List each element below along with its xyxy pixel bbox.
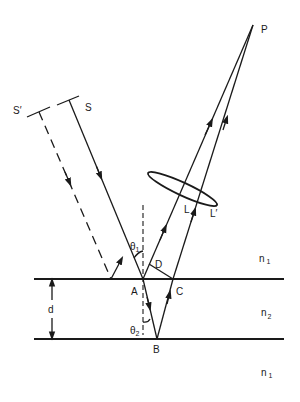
theta2-arc bbox=[143, 319, 150, 322]
label-a: A bbox=[131, 286, 138, 297]
ray-l-prime-reflected bbox=[173, 25, 253, 279]
reflected-short-arrow-icon bbox=[111, 260, 121, 279]
label-n1-bottom: n1 bbox=[261, 367, 273, 379]
label-l-prime: L′ bbox=[210, 208, 218, 219]
label-s: S bbox=[85, 102, 92, 113]
ray-l-arrow-icon-1 bbox=[160, 228, 165, 240]
ray-s-prime-arrow-icon bbox=[65, 172, 70, 183]
ray-s-incident bbox=[69, 100, 143, 279]
label-theta1: θ1 bbox=[130, 241, 140, 253]
ray-l-reflected bbox=[143, 25, 253, 279]
thin-film-interference-diagram: S S′ P L L′ D A C B d θ1 θ2 n1 n2 n1 bbox=[0, 0, 300, 402]
ray-b-to-c bbox=[157, 279, 173, 339]
ray-s-prime-incident bbox=[39, 112, 111, 279]
label-l: L bbox=[184, 204, 190, 215]
source-s-bar bbox=[57, 96, 79, 105]
label-b: B bbox=[153, 344, 160, 355]
label-d-point: D bbox=[155, 259, 162, 270]
ray-l-prime-arrow-icon-1 bbox=[191, 211, 195, 222]
label-n1-top: n1 bbox=[259, 253, 271, 265]
label-p: P bbox=[261, 24, 268, 35]
label-thickness-d: d bbox=[48, 304, 54, 315]
label-theta2: θ2 bbox=[130, 325, 140, 337]
source-s-prime-bar bbox=[27, 107, 50, 117]
ray-a-to-b bbox=[143, 279, 157, 339]
ray-l-arrow-icon-2 bbox=[205, 122, 211, 135]
ray-a-to-b-arrow-icon bbox=[147, 297, 150, 307]
label-s-prime: S′ bbox=[13, 105, 22, 116]
ray-s-arrow-icon bbox=[97, 167, 101, 177]
label-n2: n2 bbox=[261, 307, 272, 320]
label-c: C bbox=[176, 286, 183, 297]
